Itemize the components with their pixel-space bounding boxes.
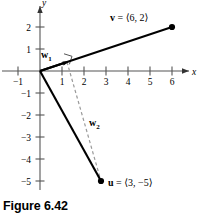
x-tick-label-3: 3 <box>104 77 109 87</box>
x-axis-label: x <box>191 67 197 77</box>
vector-u-label-rest: = ⟨3, −5⟩ <box>114 177 153 188</box>
y-axis-label: y <box>41 0 47 8</box>
x-tick-label--1: −1 <box>13 77 23 87</box>
figure-caption: Figure 6.42 <box>3 196 200 216</box>
y-tick-label--5: −5 <box>21 177 31 187</box>
x-tick-label-2: 2 <box>82 77 87 87</box>
x-tick-label-4: 4 <box>126 77 131 87</box>
y-tick-label--2: −2 <box>21 111 31 121</box>
vector-u-label: u = ⟨3, −5⟩ <box>108 177 153 188</box>
x-tick-label-5: 5 <box>148 77 153 87</box>
y-tick-label--1: −1 <box>21 89 31 99</box>
vector-w2-label-sub: 2 <box>96 123 100 131</box>
vector-v-label-rest: = ⟨6, 2⟩ <box>115 12 149 23</box>
y-tick-label-2: 2 <box>26 23 31 33</box>
vector-w1-shaft <box>40 63 64 71</box>
x-tick-label-6: 6 <box>170 77 175 87</box>
x-axis-arrowhead <box>182 68 189 73</box>
vector-w1-label: w1 <box>41 49 52 63</box>
x-tick-label-1: 1 <box>60 77 65 87</box>
y-tick-label--4: −4 <box>21 155 31 165</box>
vector-v-label: v = ⟨6, 2⟩ <box>110 12 149 23</box>
y-tick-label-1: 1 <box>26 45 31 55</box>
figure-container: −1 1 2 3 4 5 6 2 1 −1 −2 −3 −4 −5 x y <box>0 0 203 217</box>
vector-projection-plot: −1 1 2 3 4 5 6 2 1 −1 −2 −3 −4 −5 x y <box>0 0 203 196</box>
vector-w1-arrowhead <box>63 61 70 65</box>
vector-v-endpoint-dot <box>169 24 175 30</box>
vector-w1-group <box>40 61 70 71</box>
vector-u-endpoint-dot <box>98 178 104 184</box>
vector-w1-label-sub: 1 <box>48 55 52 63</box>
y-tick-label--3: −3 <box>21 133 31 143</box>
vector-w2-label: w2 <box>89 117 100 131</box>
